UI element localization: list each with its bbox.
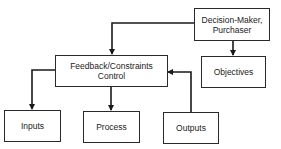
process-label: Process: [96, 122, 127, 132]
edge-outputs-to-feedback: [168, 72, 191, 112]
edge-decision-to-feedback: [112, 23, 194, 54]
objectives-box: Objectives: [201, 56, 266, 88]
inputs-label: Inputs: [21, 121, 44, 131]
edge-feedback-to-inputs: [32, 70, 55, 109]
process-box: Process: [83, 111, 140, 143]
decision-maker-box: Decision-Maker, Purchaser: [194, 8, 270, 41]
feedback-label-line2: Control: [70, 71, 153, 81]
outputs-box: Outputs: [163, 112, 219, 144]
objectives-label: Objectives: [214, 67, 254, 77]
decision-maker-label-line1: Decision-Maker,: [202, 15, 263, 25]
system-diagram: Decision-Maker, Purchaser Objectives Fee…: [0, 0, 281, 149]
inputs-box: Inputs: [4, 110, 61, 142]
feedback-constraints-box: Feedback/Constraints Control: [55, 55, 168, 87]
decision-maker-label-line2: Purchaser: [202, 25, 263, 35]
outputs-label: Outputs: [176, 123, 206, 133]
feedback-label-line1: Feedback/Constraints: [70, 61, 153, 71]
